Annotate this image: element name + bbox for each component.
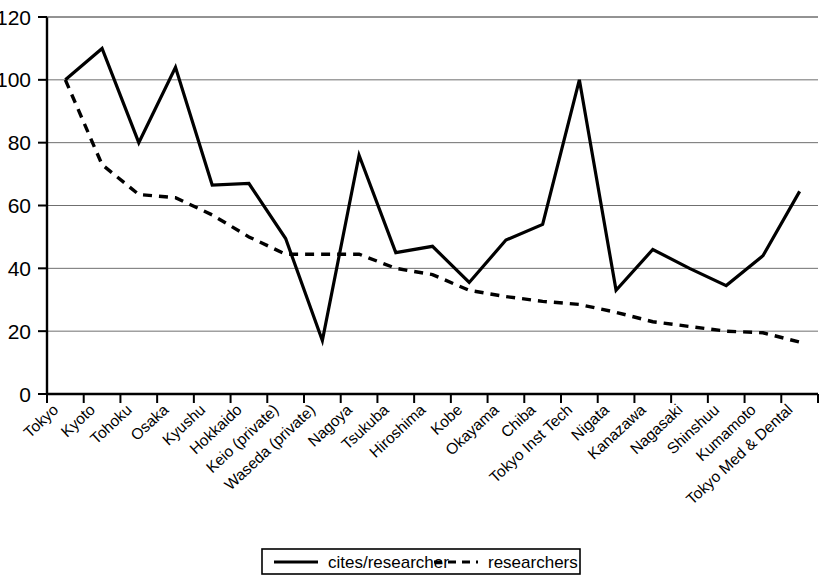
chart-figure: 020406080100120 TokyoKyotoTohokuOsakaKyu… xyxy=(0,0,827,575)
y-axis-tick-label: 40 xyxy=(8,257,31,280)
y-axis-tick-label: 120 xyxy=(0,6,31,29)
y-axis-tick-label: 60 xyxy=(8,194,31,217)
x-axis-tick-labels: TokyoKyotoTohokuOsakaKyushuHokkaidoKeio … xyxy=(20,401,795,508)
legend-label-2: researchers xyxy=(488,553,578,572)
x-axis-tick-marks xyxy=(47,394,818,403)
y-axis-tick-label: 80 xyxy=(8,131,31,154)
y-axis-tick-label: 20 xyxy=(8,320,31,343)
y-axis-tick-label: 0 xyxy=(19,383,31,406)
x-axis-tick-label: Tohoku xyxy=(87,401,135,448)
legend-label-1: cites/researcher xyxy=(328,553,449,572)
line-chart: 020406080100120 TokyoKyotoTohokuOsakaKyu… xyxy=(0,0,827,575)
y-axis-tick-marks xyxy=(38,17,47,394)
series-line-2 xyxy=(65,80,799,342)
gridline-group xyxy=(47,17,818,331)
x-axis-tick-label: Tokyo xyxy=(20,401,61,441)
y-axis-tick-label: 100 xyxy=(0,68,31,91)
chart-legend: cites/researcherresearchers xyxy=(262,549,580,574)
series-layer xyxy=(65,48,799,342)
series-line-1 xyxy=(65,48,799,340)
y-axis-tick-labels: 020406080100120 xyxy=(0,6,31,406)
